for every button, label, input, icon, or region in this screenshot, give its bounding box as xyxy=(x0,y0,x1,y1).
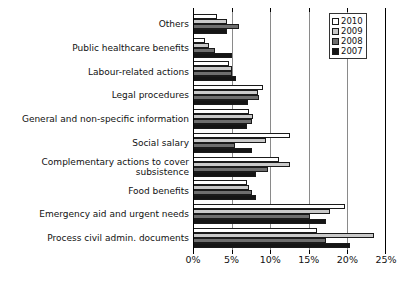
bar-chart: OthersPublic healthcare benefitsLabour-r… xyxy=(0,0,417,281)
legend-item-2007: 2007 xyxy=(332,46,363,56)
tick-15 xyxy=(309,8,310,12)
legend-label: 2007 xyxy=(341,47,363,56)
tick-20 xyxy=(347,8,348,12)
category-axis-labels: OthersPublic healthcare benefitsLabour-r… xyxy=(0,12,189,250)
legend-swatch-icon xyxy=(332,28,339,35)
x-tick-label: 5% xyxy=(224,254,239,266)
category-label: Labour-related actions xyxy=(0,67,189,77)
legend-item-2009: 2009 xyxy=(332,26,363,36)
legend-label: 2010 xyxy=(341,17,363,26)
category-label: General and non-specific information xyxy=(0,114,189,124)
legend-label: 2009 xyxy=(341,27,363,36)
value-axis-labels: 0%5%10%15%20%25% xyxy=(193,254,386,270)
x-tick-label: 20% xyxy=(337,254,358,266)
legend-swatch-icon xyxy=(332,48,339,55)
legend-label: 2008 xyxy=(341,37,363,46)
category-label: Social salary xyxy=(0,138,189,148)
x-tick-label: 25% xyxy=(375,254,396,266)
x-tick-label: 15% xyxy=(298,254,319,266)
category-label: Legal procedures xyxy=(0,90,189,100)
category-label: Emergency aid and urgent needs xyxy=(0,209,189,219)
tick-5 xyxy=(232,8,233,12)
category-label: Public healthcare benefits xyxy=(0,43,189,53)
tick-10 xyxy=(270,8,271,12)
legend-item-2010: 2010 xyxy=(332,16,363,26)
tick-25 xyxy=(385,8,386,12)
category-label: Food benefits xyxy=(0,186,189,196)
category-label: Complementary actions to cover subsisten… xyxy=(0,157,189,177)
legend: 2010200920082007 xyxy=(329,13,367,59)
legend-swatch-icon xyxy=(332,38,339,45)
x-tick-label: 0% xyxy=(185,254,200,266)
category-label: Others xyxy=(0,19,189,29)
legend-swatch-icon xyxy=(332,18,339,25)
tick-0 xyxy=(193,8,194,12)
x-tick-label: 10% xyxy=(260,254,281,266)
legend-item-2008: 2008 xyxy=(332,36,363,46)
category-label: Process civil admin. documents xyxy=(0,233,189,243)
